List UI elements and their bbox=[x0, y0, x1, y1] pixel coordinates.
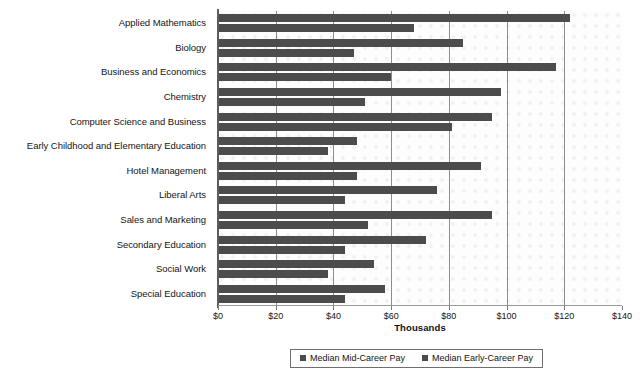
chart-legend: Median Mid-Career Pay Median Early-Caree… bbox=[290, 349, 543, 368]
category-label: Secondary Education bbox=[117, 240, 206, 250]
axis-tick bbox=[391, 306, 392, 310]
axis-title: Thousands bbox=[218, 322, 622, 333]
legend-swatch-icon bbox=[422, 355, 428, 361]
plot-area bbox=[218, 11, 622, 306]
axis-tick-label: $140 bbox=[612, 311, 632, 321]
legend-item-mid-career: Median Mid-Career Pay bbox=[300, 353, 405, 363]
category-label: Chemistry bbox=[164, 92, 206, 102]
axis-tick-label: $60 bbox=[384, 311, 399, 321]
bar bbox=[218, 236, 426, 244]
category-label: Hotel Management bbox=[127, 166, 206, 176]
bar bbox=[218, 14, 570, 22]
bar bbox=[218, 147, 328, 155]
category-label: Early Childhood and Elementary Education bbox=[27, 141, 206, 151]
value-axis-line bbox=[217, 9, 219, 308]
axis-tick bbox=[333, 306, 334, 310]
bar bbox=[218, 113, 492, 121]
gridline bbox=[507, 11, 508, 306]
bar bbox=[218, 172, 357, 180]
axis-tick bbox=[622, 306, 623, 310]
category-label: Biology bbox=[175, 43, 206, 53]
category-label: Business and Economics bbox=[101, 67, 206, 77]
axis-tick bbox=[276, 306, 277, 310]
category-axis: Applied MathematicsBiologyBusiness and E… bbox=[0, 11, 212, 306]
bar bbox=[218, 24, 414, 32]
legend-swatch-icon bbox=[300, 355, 306, 361]
axis-tick-label: $120 bbox=[554, 311, 574, 321]
axis-tick-label: $100 bbox=[497, 311, 517, 321]
bar bbox=[218, 221, 368, 229]
bar-chart: Applied MathematicsBiologyBusiness and E… bbox=[0, 0, 643, 379]
category-label: Social Work bbox=[156, 264, 206, 274]
category-label: Sales and Marketing bbox=[120, 215, 206, 225]
gridline bbox=[449, 11, 450, 306]
bar bbox=[218, 270, 328, 278]
bar bbox=[218, 49, 354, 57]
axis-tick-label: $80 bbox=[441, 311, 456, 321]
axis-tick-label: $20 bbox=[268, 311, 283, 321]
bar bbox=[218, 162, 481, 170]
legend-label: Median Early-Career Pay bbox=[432, 353, 533, 363]
axis-tick bbox=[507, 306, 508, 310]
bar bbox=[218, 123, 452, 131]
axis-tick-label: $40 bbox=[326, 311, 341, 321]
legend-item-early-career: Median Early-Career Pay bbox=[422, 353, 533, 363]
category-label: Liberal Arts bbox=[159, 190, 206, 200]
gridline bbox=[391, 11, 392, 306]
bar bbox=[218, 260, 374, 268]
axis-tick-label: $0 bbox=[213, 311, 223, 321]
category-label: Computer Science and Business bbox=[70, 117, 206, 127]
bar bbox=[218, 285, 385, 293]
bar bbox=[218, 73, 391, 81]
bar bbox=[218, 98, 365, 106]
legend-label: Median Mid-Career Pay bbox=[310, 353, 405, 363]
category-label: Special Education bbox=[131, 289, 206, 299]
bar bbox=[218, 137, 357, 145]
category-label: Applied Mathematics bbox=[119, 18, 206, 28]
axis-tick bbox=[564, 306, 565, 310]
bar bbox=[218, 63, 556, 71]
bar bbox=[218, 246, 345, 254]
bar bbox=[218, 196, 345, 204]
bar bbox=[218, 39, 463, 47]
bar bbox=[218, 88, 501, 96]
bar bbox=[218, 186, 437, 194]
axis-tick bbox=[449, 306, 450, 310]
axis-tick bbox=[218, 306, 219, 310]
bar bbox=[218, 295, 345, 303]
gridline bbox=[564, 11, 565, 306]
bar bbox=[218, 211, 492, 219]
